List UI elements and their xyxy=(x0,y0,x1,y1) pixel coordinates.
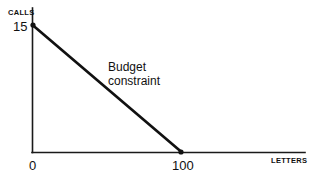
budget-constraint-label-line2: constraint xyxy=(108,74,160,88)
horizontal-intercept-marker xyxy=(178,149,183,154)
budget-constraint-line xyxy=(33,25,182,152)
x-axis-title: LETTERS xyxy=(271,157,307,165)
budget-constraint-label-line1: Budget xyxy=(108,60,160,74)
x-axis-tick-label-100: 100 xyxy=(172,159,194,172)
x-axis-tick-label-0: 0 xyxy=(29,159,36,172)
budget-constraint-figure: CALLS 15 0 100 LETTERS Budget constraint xyxy=(0,0,315,185)
budget-constraint-label: Budget constraint xyxy=(108,60,160,88)
y-axis-tick-label-15: 15 xyxy=(13,20,27,33)
vertical-intercept-marker xyxy=(30,22,35,27)
chart-canvas xyxy=(0,0,315,185)
y-axis-title: CALLS xyxy=(8,9,35,17)
